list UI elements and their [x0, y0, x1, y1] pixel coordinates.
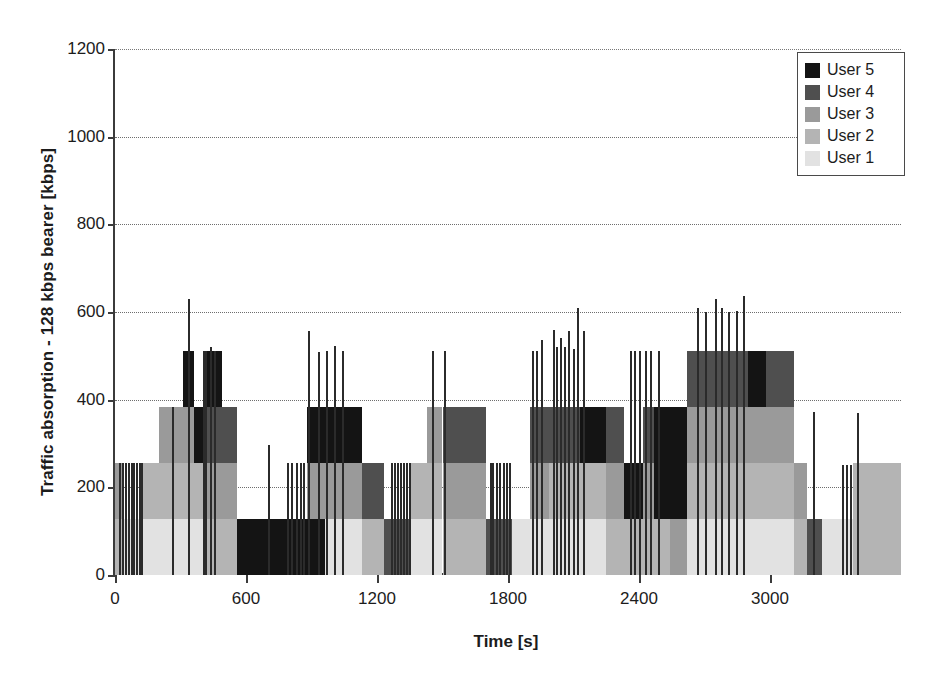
spike-marker: [658, 351, 660, 575]
area-segment: [766, 407, 794, 463]
spike-marker: [721, 308, 723, 575]
area-segment: [222, 519, 237, 575]
area-segment: [443, 463, 487, 519]
x-tick-label: 0: [75, 589, 155, 609]
area-segment: [159, 463, 183, 519]
y-tick-mark: [108, 312, 115, 314]
y-tick-label: 0: [45, 565, 115, 585]
spike-marker: [496, 463, 498, 575]
spike-marker: [857, 413, 859, 575]
legend-item[interactable]: User 5: [805, 59, 897, 81]
spike-marker: [122, 463, 124, 575]
area-segment: [222, 463, 237, 519]
spike-marker: [564, 347, 566, 575]
spike-marker: [842, 465, 844, 575]
spike-marker: [214, 351, 216, 575]
x-tick-mark: [115, 575, 117, 583]
area-segment: [606, 463, 623, 519]
spike-marker: [403, 463, 405, 575]
spike-marker: [141, 463, 143, 575]
area-segment: [307, 407, 324, 463]
spike-marker: [568, 331, 570, 575]
y-tick-mark: [108, 487, 115, 489]
spike-marker: [560, 338, 562, 575]
area-segment: [307, 463, 324, 519]
area-segment: [748, 519, 765, 575]
spike-marker: [577, 308, 579, 575]
spike-marker: [541, 340, 543, 575]
chart-figure: Traffic absorption - 128 kbps bearer [kb…: [0, 0, 939, 684]
legend-item[interactable]: User 3: [805, 103, 897, 125]
area-segment: [159, 519, 183, 575]
y-tick-label: 1000: [45, 127, 115, 147]
y-tick-mark: [108, 137, 115, 139]
spike-marker: [210, 347, 212, 575]
spike-marker: [342, 351, 344, 575]
area-segment: [427, 463, 442, 519]
legend-swatch-icon: [805, 107, 820, 122]
spike-marker: [492, 463, 494, 575]
spike-marker: [394, 463, 396, 575]
area-segment: [143, 519, 158, 575]
area-segment: [794, 463, 807, 519]
y-tick-label: 1200: [45, 39, 115, 59]
area-segment: [606, 519, 623, 575]
spike-marker: [326, 351, 328, 575]
spike-marker: [400, 463, 402, 575]
data-layer: [115, 49, 901, 575]
legend: User 5User 4User 3User 2User 1: [797, 52, 905, 176]
spike-marker: [268, 445, 270, 575]
area-segment: [853, 463, 901, 519]
spike-marker: [736, 311, 738, 575]
y-tick-label: 200: [45, 477, 115, 497]
area-segment: [748, 463, 765, 519]
area-segment: [748, 407, 765, 463]
area-segment: [307, 519, 324, 575]
y-tick-label: 400: [45, 390, 115, 410]
spike-marker: [397, 463, 399, 575]
spike-marker: [506, 463, 508, 575]
x-tick-mark: [639, 575, 641, 583]
spike-marker: [536, 351, 538, 575]
x-tick-mark: [508, 575, 510, 583]
y-tick-label: 800: [45, 214, 115, 234]
area-segment: [654, 407, 669, 463]
legend-swatch-icon: [805, 85, 820, 100]
y-tick-mark: [108, 575, 115, 577]
spike-marker: [318, 352, 320, 575]
legend-item[interactable]: User 4: [805, 81, 897, 103]
spike-marker: [532, 351, 534, 575]
legend-swatch-icon: [805, 129, 820, 144]
area-segment: [427, 407, 442, 463]
legend-item[interactable]: User 2: [805, 125, 897, 147]
spike-marker: [573, 349, 575, 575]
spike-marker: [743, 296, 745, 575]
area-segment: [512, 519, 529, 575]
legend-item[interactable]: User 1: [805, 147, 897, 169]
x-axis-title: Time [s]: [113, 632, 899, 652]
spike-marker: [697, 308, 699, 575]
area-segment: [159, 407, 183, 463]
area-segment: [748, 351, 765, 407]
x-tick-mark: [246, 575, 248, 583]
area-segment: [606, 407, 623, 463]
x-tick-label: 1800: [468, 589, 548, 609]
x-tick-label: 3000: [730, 589, 810, 609]
spike-marker: [172, 407, 174, 575]
spike-marker: [850, 465, 852, 575]
spike-marker: [728, 312, 730, 575]
area-segment: [766, 519, 794, 575]
spike-marker: [503, 463, 505, 575]
area-segment: [362, 519, 384, 575]
spike-marker: [287, 463, 289, 575]
x-tick-mark: [770, 575, 772, 583]
x-tick-mark: [377, 575, 379, 583]
area-segment: [766, 351, 794, 407]
spike-marker: [639, 351, 641, 575]
area-segment: [222, 407, 237, 463]
spike-marker: [334, 346, 336, 575]
x-tick-label: 2400: [599, 589, 679, 609]
spike-marker: [296, 463, 298, 575]
spike-marker: [308, 331, 310, 575]
legend-swatch-icon: [805, 151, 820, 166]
